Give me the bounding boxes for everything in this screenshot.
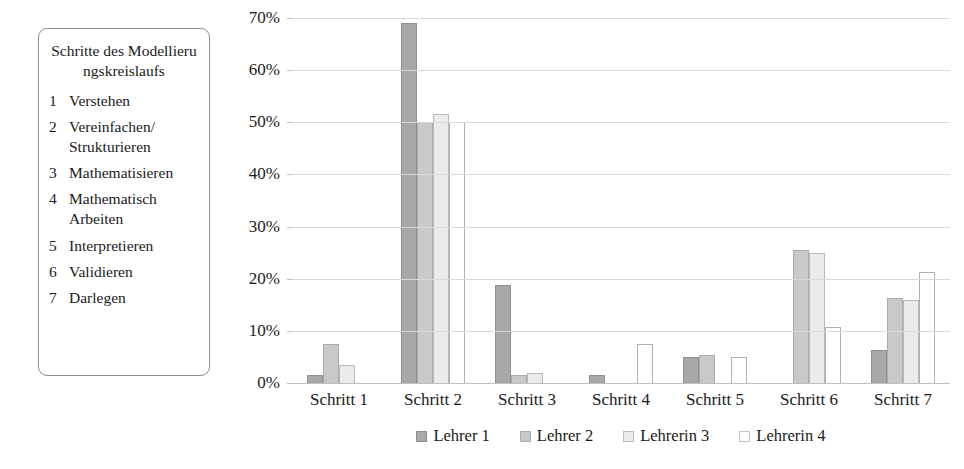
step-item: 4Mathematisch Arbeiten — [47, 189, 201, 229]
gridline — [292, 70, 950, 71]
gridline — [292, 279, 950, 280]
x-axis-tick-label: Schritt 3 — [480, 390, 574, 410]
step-number: 3 — [47, 163, 69, 183]
gridline — [292, 122, 950, 123]
step-number: 2 — [47, 117, 69, 137]
bar[interactable] — [417, 122, 433, 383]
gridline — [292, 174, 950, 175]
bar[interactable] — [527, 373, 543, 383]
y-axis-tick-label: 40% — [249, 164, 280, 184]
step-number: 6 — [47, 262, 69, 282]
step-label: Mathematisieren — [69, 163, 201, 183]
step-item: 1Verstehen — [47, 91, 201, 111]
bar[interactable] — [339, 365, 355, 383]
legend-label: Lehrer 1 — [433, 426, 489, 446]
bar[interactable] — [793, 250, 809, 383]
bar[interactable] — [433, 114, 449, 383]
bar-group — [292, 18, 386, 383]
step-item: 6Validieren — [47, 262, 201, 282]
bar[interactable] — [731, 357, 747, 383]
y-axis-tick-mark — [287, 70, 292, 71]
step-number: 4 — [47, 189, 69, 209]
bar[interactable] — [511, 375, 527, 383]
legend-entry[interactable]: Lehrer 1 — [416, 426, 489, 446]
axis-baseline — [292, 383, 950, 384]
bar-group — [668, 18, 762, 383]
step-number: 7 — [47, 288, 69, 308]
legend-label: Lehrer 2 — [537, 426, 593, 446]
bar[interactable] — [307, 375, 323, 383]
y-axis-tick-label: 20% — [249, 269, 280, 289]
bar[interactable] — [809, 253, 825, 383]
step-number: 1 — [47, 91, 69, 111]
legend-label: Lehrerin 4 — [756, 426, 825, 446]
plot-area-wrapper: 0%10%20%30%40%50%60%70% — [228, 18, 950, 383]
y-axis-tick-label: 60% — [249, 60, 280, 80]
step-label: Verstehen — [69, 91, 201, 111]
step-label: Vereinfachen/ Strukturieren — [69, 117, 201, 157]
legend-swatch-icon — [520, 431, 531, 442]
legend-entry[interactable]: Lehrer 2 — [520, 426, 593, 446]
bar[interactable] — [903, 300, 919, 383]
bar[interactable] — [871, 350, 887, 383]
steps-legend-title: Schritte des Modellierungskreislaufs — [51, 41, 197, 81]
step-label: Mathematisch Arbeiten — [69, 189, 201, 229]
legend-swatch-icon — [739, 431, 750, 442]
legend-label: Lehrerin 3 — [640, 426, 709, 446]
y-axis-tick-label: 50% — [249, 112, 280, 132]
y-axis-tick-mark — [287, 122, 292, 123]
bar[interactable] — [449, 122, 465, 383]
x-axis-tick-label: Schritt 4 — [574, 390, 668, 410]
x-axis-tick-label: Schritt 5 — [668, 390, 762, 410]
bar-group — [856, 18, 950, 383]
step-item: 3Mathematisieren — [47, 163, 201, 183]
bar[interactable] — [323, 344, 339, 383]
bar[interactable] — [919, 272, 935, 383]
bar[interactable] — [825, 327, 841, 383]
bar[interactable] — [637, 344, 653, 383]
step-item: 7Darlegen — [47, 288, 201, 308]
y-axis-tick-label: 0% — [257, 373, 280, 393]
bar-group — [574, 18, 668, 383]
y-axis-tick-mark — [287, 383, 292, 384]
series-legend: Lehrer 1Lehrer 2Lehrerin 3Lehrerin 4 — [292, 426, 950, 446]
y-axis-tick-mark — [287, 331, 292, 332]
x-axis-tick-label: Schritt 1 — [292, 390, 386, 410]
legend-swatch-icon — [416, 431, 427, 442]
x-axis-tick-label: Schritt 2 — [386, 390, 480, 410]
y-axis-tick-label: 10% — [249, 321, 280, 341]
gridline — [292, 331, 950, 332]
bar[interactable] — [589, 375, 605, 383]
bar-group — [386, 18, 480, 383]
gridline — [292, 227, 950, 228]
steps-list: 1Verstehen2Vereinfachen/ Strukturieren3M… — [47, 91, 201, 308]
step-label: Interpretieren — [69, 236, 201, 256]
bar[interactable] — [683, 357, 699, 383]
y-axis-tick-label: 30% — [249, 217, 280, 237]
steps-legend-box: Schritte des Modellierungskreislaufs 1Ve… — [38, 28, 210, 376]
step-label: Darlegen — [69, 288, 201, 308]
bar-chart: 0%10%20%30%40%50%60%70% Schritt 1Schritt… — [228, 18, 950, 466]
y-axis-tick-mark — [287, 174, 292, 175]
y-axis-tick-mark — [287, 18, 292, 19]
step-item: 5Interpretieren — [47, 236, 201, 256]
chart-page: Schritte des Modellierungskreislaufs 1Ve… — [0, 0, 964, 469]
bar-group — [480, 18, 574, 383]
x-axis-tick-label: Schritt 7 — [856, 390, 950, 410]
y-axis: 0%10%20%30%40%50%60%70% — [228, 18, 286, 383]
y-axis-tick-label: 70% — [249, 8, 280, 28]
x-axis: Schritt 1Schritt 2Schritt 3Schritt 4Schr… — [292, 390, 950, 410]
bar[interactable] — [495, 285, 511, 383]
bar[interactable] — [887, 298, 903, 383]
legend-entry[interactable]: Lehrerin 4 — [739, 426, 825, 446]
legend-swatch-icon — [623, 431, 634, 442]
bar[interactable] — [699, 355, 715, 383]
bar-group — [762, 18, 856, 383]
step-label: Validieren — [69, 262, 201, 282]
bar[interactable] — [401, 23, 417, 383]
step-number: 5 — [47, 236, 69, 256]
x-axis-tick-label: Schritt 6 — [762, 390, 856, 410]
plot-area — [292, 18, 950, 383]
bar-groups — [292, 18, 950, 383]
legend-entry[interactable]: Lehrerin 3 — [623, 426, 709, 446]
